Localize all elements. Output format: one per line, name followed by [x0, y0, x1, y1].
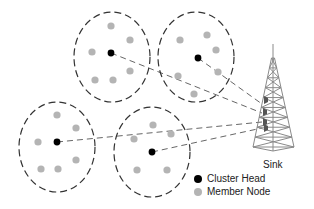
member-node: [54, 165, 61, 172]
legend-cluster-head-icon: [194, 175, 202, 183]
legend-member-node-label: Member Node: [207, 187, 270, 197]
link-to-sink: [198, 58, 262, 104]
member-node: [107, 22, 114, 29]
antenna-panel: [264, 124, 268, 132]
member-node: [126, 67, 133, 74]
cluster-bottom-left: [19, 102, 95, 192]
member-node: [167, 130, 174, 137]
member-node: [53, 111, 60, 118]
member-node: [149, 121, 156, 128]
cluster-head-node: [108, 50, 115, 57]
sink-tower-icon: [253, 44, 294, 151]
member-node: [133, 166, 140, 173]
member-node: [130, 135, 137, 142]
member-node: [91, 76, 98, 83]
member-node: [212, 46, 219, 53]
cluster-top-left: [74, 12, 150, 102]
link-to-sink: [57, 122, 262, 142]
legend-cluster-head-label: Cluster Head: [207, 174, 265, 184]
member-node: [126, 36, 133, 43]
cluster-top-right: [158, 12, 234, 102]
cluster-head-node: [54, 139, 61, 146]
cluster-head-node: [195, 55, 202, 62]
member-node: [72, 124, 79, 131]
cluster-head-node: [149, 149, 156, 156]
member-node: [72, 156, 79, 163]
sink-label: Sink: [263, 160, 282, 170]
member-node: [109, 76, 116, 83]
member-node: [176, 36, 183, 43]
member-node: [190, 90, 197, 97]
member-node: [174, 72, 181, 79]
member-node: [163, 166, 170, 173]
clusters: [19, 12, 234, 197]
link-to-sink: [111, 53, 262, 113]
member-node: [34, 138, 41, 145]
member-node: [203, 31, 210, 38]
legend-member-node-icon: [194, 188, 202, 196]
member-node: [88, 48, 95, 55]
data-links: [57, 53, 262, 152]
member-node: [214, 68, 221, 75]
wsn-cluster-diagram: [0, 0, 314, 209]
cluster-bottom-middle: [114, 107, 190, 197]
member-node: [37, 165, 44, 172]
